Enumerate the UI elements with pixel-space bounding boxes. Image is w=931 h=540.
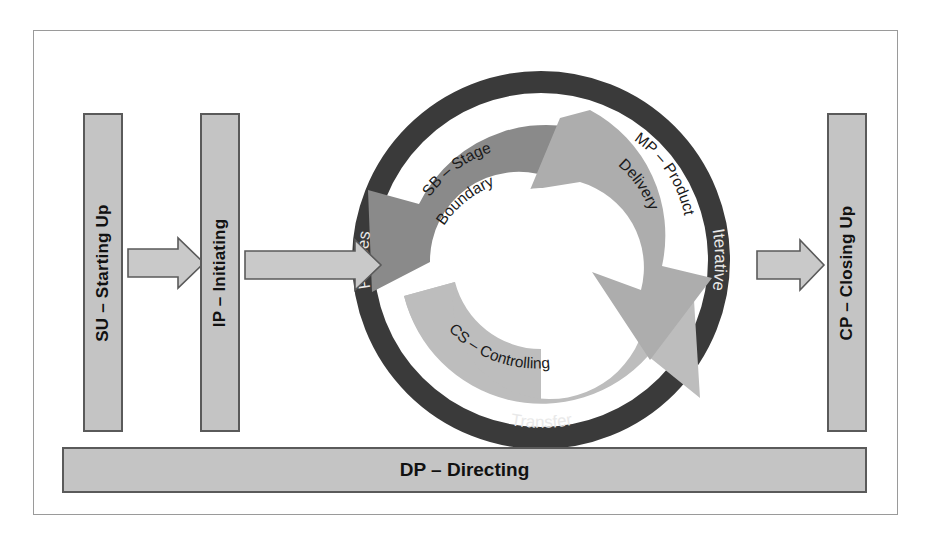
process-box-su[interactable]: SU – Starting Up [83, 113, 123, 432]
process-box-cp[interactable]: CP – Closing Up [827, 113, 867, 432]
process-box-su-label: SU – Starting Up [93, 204, 113, 341]
process-bar-dp-label: DP – Directing [400, 459, 530, 481]
process-bar-dp[interactable]: DP – Directing [62, 447, 867, 493]
connector-su-to-ip [128, 238, 204, 288]
connector-cycle-to-cp [757, 240, 824, 290]
connector-ip-to-cycle [245, 240, 381, 290]
process-box-cp-label: CP – Closing Up [837, 205, 857, 340]
diagram-canvas: Phases Iterative Transfer SB – Stage Bou… [0, 0, 931, 540]
process-box-ip-label: IP – Initiating [210, 218, 230, 326]
process-box-ip[interactable]: IP – Initiating [200, 113, 240, 432]
